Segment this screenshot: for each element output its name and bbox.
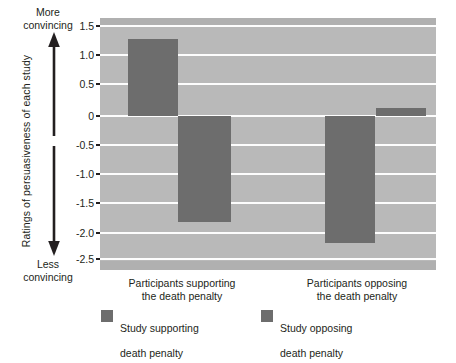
- y-tick-label--1.5: -1.5: [52, 198, 94, 208]
- y-tick-label--2.5: -2.5: [52, 254, 94, 264]
- bar-supporting-participants-supporting-study: [128, 39, 178, 116]
- y-tick-label-0.5: 0.5: [52, 79, 94, 89]
- legend-0-line1: Study supporting: [120, 322, 199, 335]
- y-tick-label--2.0: -2.0: [52, 228, 94, 238]
- less-convincing-line2: convincing: [12, 271, 84, 284]
- chart-legend: Study supporting death penalty Study opp…: [98, 309, 428, 341]
- legend-swatch-icon-study-opposing: [261, 310, 273, 322]
- y-axis-title: Ratings of persuasiveness of each study: [18, 21, 34, 281]
- category-1-line1: Participants opposing: [272, 277, 442, 290]
- bar-opposing-participants-opposing-study: [376, 108, 426, 116]
- gridline--2.0: [100, 232, 436, 234]
- legend-label-study-supporting: Study supporting death penalty: [120, 309, 199, 363]
- y-tick-label-0: 0: [52, 111, 94, 121]
- legend-item-study-opposing: Study opposing death penalty: [261, 309, 352, 363]
- y-tick-label--1.0: -1.0: [52, 169, 94, 179]
- category-label-participants-supporting: Participants supporting the death penalt…: [97, 277, 267, 302]
- plot-top-band: [100, 18, 436, 25]
- category-1-line2: the death penalty: [272, 290, 442, 303]
- plot-area: [100, 18, 436, 270]
- legend-label-study-opposing: Study opposing death penalty: [280, 309, 352, 363]
- legend-1-line1: Study opposing: [280, 322, 352, 335]
- category-0-line2: the death penalty: [97, 290, 267, 303]
- category-0-line1: Participants supporting: [97, 277, 267, 290]
- gridline--1.0: [100, 173, 436, 175]
- y-tick-label--0.5: -0.5: [52, 140, 94, 150]
- more-convincing-line1: More: [12, 6, 84, 19]
- category-label-participants-opposing: Participants opposing the death penalty: [272, 277, 442, 302]
- y-tick-label-1.0: 1.0: [52, 50, 94, 60]
- gridline--0.5: [100, 144, 436, 146]
- legend-1-line2: death penalty: [280, 347, 352, 360]
- gridline--1.5: [100, 202, 436, 204]
- legend-swatch-icon-study-supporting: [101, 310, 113, 322]
- gridline--2.5: [100, 258, 436, 260]
- legend-0-line2: death penalty: [120, 347, 199, 360]
- legend-item-study-supporting: Study supporting death penalty: [101, 309, 199, 363]
- bar-supporting-participants-opposing-study: [178, 116, 231, 222]
- bar-opposing-participants-supporting-study: [325, 116, 375, 243]
- plot-bottom-band: [100, 261, 436, 270]
- y-tick-label-1.5: 1.5: [52, 21, 94, 31]
- gridline-1.5: [100, 25, 436, 27]
